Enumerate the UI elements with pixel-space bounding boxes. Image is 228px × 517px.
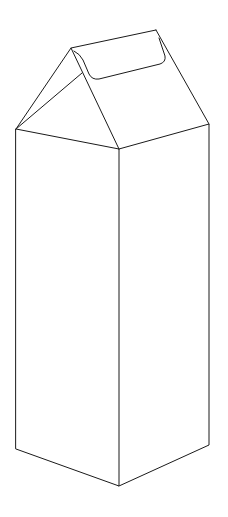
carton-gable-fold	[16, 73, 82, 129]
carton-ridge	[71, 30, 156, 48]
carton-gable-left	[16, 48, 119, 149]
carton-right-face	[119, 124, 209, 486]
carton-left-face	[16, 129, 119, 486]
carton-roof-right	[156, 30, 209, 124]
milk-carton-illustration	[0, 0, 228, 517]
